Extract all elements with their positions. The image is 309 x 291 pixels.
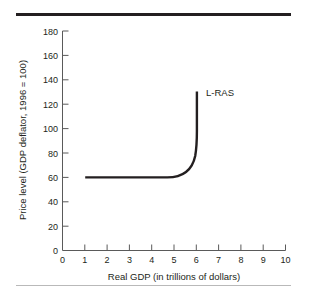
x-tick-label: 10 <box>280 255 290 265</box>
x-tick-label: 8 <box>238 255 243 265</box>
x-tick-label: 2 <box>105 255 110 265</box>
x-tick-label: 9 <box>261 255 266 265</box>
y-tick-label: 180 <box>43 27 58 37</box>
x-axis-title: Real GDP (in trillions of dollars) <box>108 271 240 282</box>
y-axis-ticks <box>63 31 69 226</box>
y-tick-label: 80 <box>48 149 58 159</box>
y-tick-label: 140 <box>43 75 58 85</box>
y-tick-label: 60 <box>48 173 58 183</box>
x-axis-tick-labels: 0 1 2 3 4 5 6 7 8 9 10 <box>60 255 291 265</box>
y-axis-title: Price level (GDP deflator, 1996 = 100) <box>17 60 28 220</box>
chart-plot-area: 180 160 140 120 100 80 60 40 20 0 0 1 2 … <box>0 0 309 291</box>
y-tick-label: 160 <box>43 51 58 61</box>
x-tick-label: 3 <box>127 255 132 265</box>
x-tick-label: 7 <box>216 255 221 265</box>
x-tick-label: 4 <box>149 255 154 265</box>
y-axis-tick-labels: 180 160 140 120 100 80 60 40 20 0 <box>43 27 58 257</box>
y-tick-label: 120 <box>43 100 58 110</box>
lras-curve-label: L-RAS <box>206 87 234 98</box>
x-tick-label: 0 <box>60 255 65 265</box>
x-tick-label: 6 <box>194 255 199 265</box>
lras-curve <box>85 92 197 178</box>
figure-container: 180 160 140 120 100 80 60 40 20 0 0 1 2 … <box>0 0 309 291</box>
lras-chart-svg: 180 160 140 120 100 80 60 40 20 0 0 1 2 … <box>0 0 309 291</box>
x-tick-label: 1 <box>82 255 87 265</box>
y-tick-label: 20 <box>48 222 58 232</box>
y-tick-label: 0 <box>53 246 58 256</box>
x-tick-label: 5 <box>171 255 176 265</box>
y-tick-label: 100 <box>43 124 58 134</box>
x-axis-ticks <box>85 245 286 251</box>
y-tick-label: 40 <box>48 197 58 207</box>
